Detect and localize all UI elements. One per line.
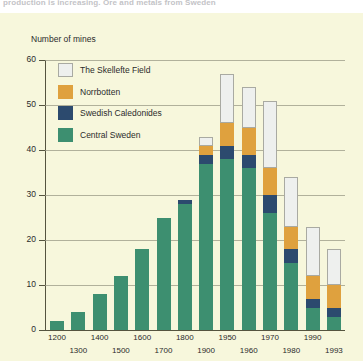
bar-segment-orange — [327, 285, 341, 308]
bar-1950 — [220, 74, 234, 331]
bar-segment-white — [199, 137, 213, 146]
chart-figure: production is increasing. Ore and metals… — [0, 0, 363, 361]
y-axis-tick — [39, 330, 45, 331]
caption-text: production is increasing. Ore and metals… — [3, 0, 216, 7]
bar-segment-green — [50, 321, 64, 330]
gridline — [45, 150, 345, 151]
legend-item-skellefte: The Skellefte Field — [58, 61, 162, 79]
bar-1800 — [178, 200, 192, 331]
x-axis-tick-label: 1700 — [149, 346, 179, 355]
bar-segment-white — [220, 74, 234, 124]
bar-segment-navy — [327, 308, 341, 317]
y-axis-tick — [39, 150, 45, 151]
bar-segment-white — [242, 87, 256, 128]
bar-segment-navy — [284, 249, 298, 263]
bar-1990 — [306, 227, 320, 331]
bar-segment-green — [306, 308, 320, 331]
bar-segment-orange — [199, 146, 213, 155]
bar-1600 — [135, 249, 149, 330]
x-axis-tick-label: 1990 — [298, 333, 328, 342]
bar-1960 — [242, 87, 256, 330]
x-axis-tick-label: 1970 — [255, 333, 285, 342]
legend-item-central: Central Sweden — [58, 126, 162, 144]
legend-label: The Skellefte Field — [80, 65, 150, 75]
bar-segment-white — [327, 249, 341, 285]
bar-1200 — [50, 321, 64, 330]
caption-strip: production is increasing. Ore and metals… — [0, 0, 363, 13]
bar-segment-green — [199, 164, 213, 331]
x-axis-tick-label: 1993 — [319, 346, 349, 355]
y-axis-tick-label: 10 — [14, 279, 36, 289]
bar-segment-navy — [220, 146, 234, 160]
bar-segment-green — [178, 204, 192, 330]
x-axis-line — [45, 330, 345, 331]
bar-segment-orange — [220, 123, 234, 146]
legend-item-caledonides: Swedish Caledonides — [58, 104, 162, 122]
legend-swatch-central — [58, 128, 73, 142]
bar-segment-orange — [306, 276, 320, 299]
x-axis-tick-label: 1600 — [127, 333, 157, 342]
gridline — [45, 240, 345, 241]
y-axis-tick — [39, 105, 45, 106]
y-axis-tick-label: 60 — [14, 54, 36, 64]
bar-1300 — [71, 312, 85, 330]
bar-1970 — [263, 101, 277, 331]
bar-segment-green — [135, 249, 149, 330]
bar-segment-orange — [242, 128, 256, 155]
x-axis-tick-label: 1200 — [42, 333, 72, 342]
gridline — [45, 195, 345, 196]
y-axis-tick-label: 20 — [14, 234, 36, 244]
y-axis-tick — [39, 240, 45, 241]
bar-segment-green — [114, 276, 128, 330]
legend-label: Swedish Caledonides — [80, 108, 162, 118]
bar-segment-white — [306, 227, 320, 277]
x-axis-tick-label: 1950 — [212, 333, 242, 342]
bar-segment-green — [93, 294, 107, 330]
x-axis-tick-label: 1300 — [63, 346, 93, 355]
bar-1993 — [327, 249, 341, 330]
legend-label: Norrbotten — [80, 87, 120, 97]
bar-segment-navy — [199, 155, 213, 164]
x-axis-tick-label: 1980 — [276, 346, 306, 355]
x-axis-tick-label: 1400 — [85, 333, 115, 342]
legend-item-norrbotten: Norrbotten — [58, 83, 162, 101]
legend-swatch-norrbotten — [58, 85, 73, 99]
bar-segment-navy — [242, 155, 256, 169]
bar-segment-white — [263, 101, 277, 169]
gridline — [45, 285, 345, 286]
y-axis-tick — [39, 285, 45, 286]
y-axis-tick-label: 40 — [14, 144, 36, 154]
bar-segment-orange — [263, 168, 277, 195]
bar-1400 — [93, 294, 107, 330]
bar-segment-green — [284, 263, 298, 331]
bar-segment-orange — [284, 227, 298, 250]
y-axis-tick-label: 30 — [14, 189, 36, 199]
bar-1980 — [284, 177, 298, 330]
x-axis-tick-label: 1900 — [191, 346, 221, 355]
chart-legend: The Skellefte FieldNorrbottenSwedish Cal… — [58, 61, 162, 147]
bar-1700 — [157, 218, 171, 331]
bar-1900 — [199, 137, 213, 331]
x-axis-tick-label: 1800 — [170, 333, 200, 342]
bar-segment-green — [157, 218, 171, 331]
legend-swatch-skellefte — [58, 63, 73, 77]
plot-area: 0102030405060120013001400150016001700180… — [0, 13, 363, 361]
bar-segment-green — [263, 213, 277, 330]
bar-segment-green — [220, 159, 234, 330]
bar-segment-navy — [306, 299, 320, 308]
y-axis-tick — [39, 195, 45, 196]
x-axis-tick-label: 1960 — [234, 346, 264, 355]
bar-segment-green — [327, 317, 341, 331]
bar-segment-green — [71, 312, 85, 330]
bar-segment-white — [284, 177, 298, 227]
y-axis-tick — [39, 60, 45, 61]
x-axis-tick-label: 1500 — [106, 346, 136, 355]
legend-swatch-caledonides — [58, 106, 73, 120]
bar-segment-navy — [263, 195, 277, 213]
y-axis-tick-label: 50 — [14, 99, 36, 109]
y-axis-tick-label: 0 — [14, 324, 36, 334]
chart-panel: Number of mines 010203040506012001300140… — [0, 13, 363, 361]
bar-segment-green — [242, 168, 256, 330]
bar-1500 — [114, 276, 128, 330]
legend-label: Central Sweden — [80, 130, 140, 140]
